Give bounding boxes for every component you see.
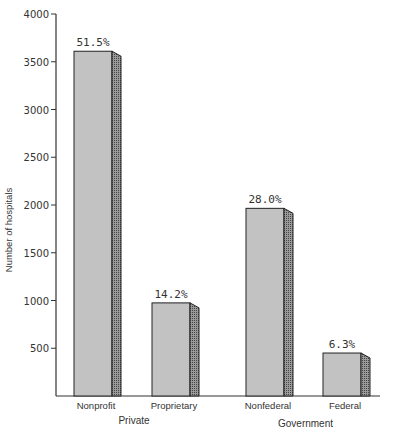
data-label: 51.5% bbox=[76, 36, 109, 49]
y-tick-label: 500 bbox=[30, 343, 49, 354]
bar-nonfederal bbox=[246, 208, 284, 396]
bar-federal bbox=[323, 353, 361, 396]
hospital-bar-chart: 5001000150020002500300035004000 51.5%Non… bbox=[0, 0, 393, 434]
bar-side-proprietary bbox=[190, 303, 199, 396]
y-tick-label: 2000 bbox=[24, 200, 49, 211]
y-tick-label: 2500 bbox=[24, 152, 49, 163]
data-label: 28.0% bbox=[248, 193, 281, 206]
category-label: Nonprofit bbox=[77, 400, 116, 411]
bar-side-nonprofit bbox=[112, 51, 121, 396]
bar-nonprofit bbox=[74, 51, 112, 396]
y-tick-label: 1500 bbox=[24, 248, 49, 259]
group-label: Private bbox=[118, 415, 150, 426]
bars bbox=[74, 51, 370, 396]
bar-proprietary bbox=[152, 303, 190, 396]
y-tick-label: 1000 bbox=[24, 296, 49, 307]
group-label: Government bbox=[278, 418, 333, 429]
y-tick-label: 3500 bbox=[24, 57, 49, 68]
category-label: Nonfederal bbox=[245, 400, 291, 411]
data-label: 6.3% bbox=[329, 338, 356, 351]
category-label: Federal bbox=[329, 400, 361, 411]
data-label: 14.2% bbox=[154, 288, 187, 301]
y-tick-label: 3000 bbox=[24, 105, 49, 116]
bar-side-nonfederal bbox=[284, 208, 293, 396]
bar-side-federal bbox=[361, 353, 370, 396]
y-tick-label: 4000 bbox=[24, 9, 49, 20]
category-label: Proprietary bbox=[151, 400, 198, 411]
y-axis-label: Number of hospitals bbox=[3, 188, 14, 273]
